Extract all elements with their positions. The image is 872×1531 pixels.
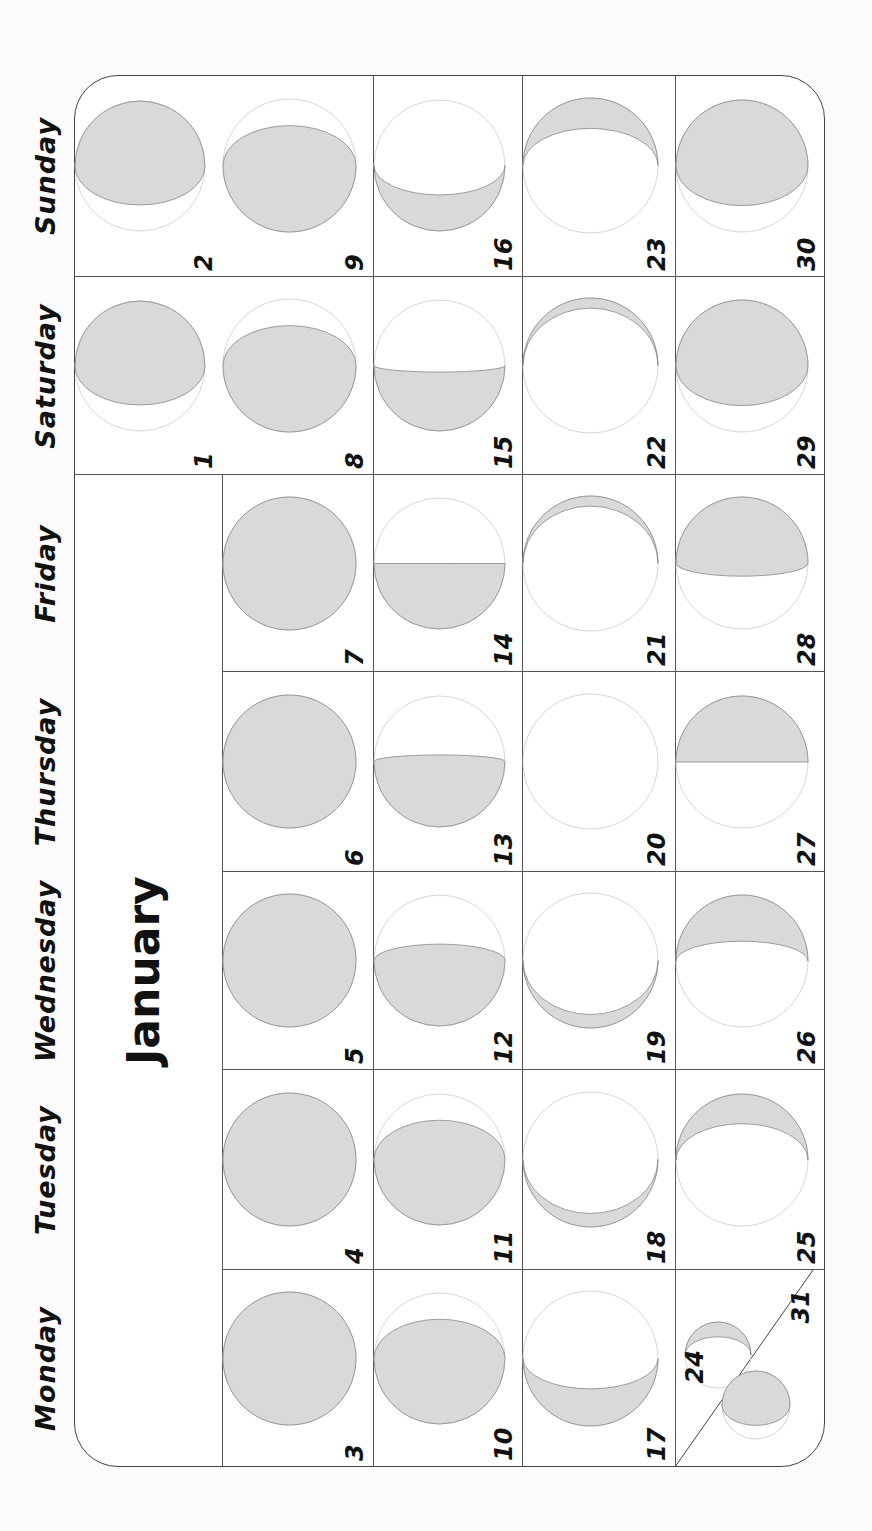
- day-cell-10: 10: [373, 1270, 522, 1467]
- day-number: 28: [793, 633, 821, 666]
- moon-phase-icon: [372, 1093, 511, 1228]
- day-number: 7: [341, 649, 369, 666]
- day-cell-20: 20: [522, 672, 675, 872]
- day-cell-19: 19: [522, 872, 675, 1070]
- weekday-monday: Monday: [20, 1270, 70, 1467]
- moon-phase-icon: [73, 99, 211, 233]
- moon-phase-icon: [372, 99, 511, 234]
- day-cell-17: 17: [522, 1270, 675, 1467]
- day-cell-2: 2: [74, 75, 222, 277]
- moon-phase-icon: [674, 1092, 814, 1228]
- moon-phase-icon: [521, 494, 664, 633]
- moon-phase-icon: [674, 98, 814, 234]
- moon-phase-icon: [521, 97, 664, 236]
- day-cell-21: 21: [522, 475, 675, 672]
- day-cell-1: 1: [74, 277, 222, 475]
- moon-phase-icon: [372, 1291, 511, 1426]
- moon-phase-icon: [521, 1289, 664, 1428]
- day-number: 22: [643, 436, 671, 469]
- day-number: 5: [341, 1047, 369, 1064]
- day-number: 9: [341, 254, 369, 271]
- moon-phase-icon: [372, 299, 511, 434]
- day-number: 12: [490, 1031, 518, 1064]
- moon-phase-icon: [674, 496, 814, 632]
- calendar-sheet: MondayTuesdayWednesdayThursdayFridaySatu…: [0, 0, 872, 1531]
- day-cell-5: 5: [222, 872, 373, 1070]
- moon-phase-icon: [73, 299, 211, 433]
- weekday-thursday: Thursday: [20, 672, 70, 872]
- day-cell-27: 27: [675, 672, 825, 872]
- moon-phase-icon: [521, 892, 664, 1031]
- day-number: 19: [643, 1031, 671, 1064]
- day-number: 31: [787, 1290, 815, 1323]
- day-cell-24: 2431: [675, 1270, 825, 1467]
- weekday-sunday: Sunday: [20, 75, 70, 277]
- moon-phase-icon: [674, 298, 814, 434]
- day-number: 8: [341, 452, 369, 469]
- day-number: 29: [793, 436, 821, 469]
- day-cell-11: 11: [373, 1070, 522, 1270]
- moon-phase-icon: [521, 693, 664, 832]
- calendar-page: MondayTuesdayWednesdayThursdayFridaySatu…: [0, 0, 872, 1531]
- day-number: 24: [681, 1350, 709, 1383]
- moon-phase-icon: [221, 495, 362, 632]
- day-cell-16: 16: [373, 75, 522, 277]
- day-cell-9: 9: [222, 75, 373, 277]
- day-cell-4: 4: [222, 1070, 373, 1270]
- moon-phase-icon: [521, 1091, 664, 1230]
- weekday-friday: Friday: [20, 475, 70, 672]
- moon-phase-icon: [372, 496, 511, 631]
- day-cell-15: 15: [373, 277, 522, 475]
- moon-phase-icon: [221, 893, 362, 1030]
- day-cell-28: 28: [675, 475, 825, 672]
- day-cell-25: 25: [675, 1070, 825, 1270]
- day-number: 30: [793, 238, 821, 271]
- day-cell-7: 7: [222, 475, 373, 672]
- weekday-wednesday: Wednesday: [20, 872, 70, 1070]
- day-cell-13: 13: [373, 672, 522, 872]
- day-number: 25: [793, 1231, 821, 1264]
- moon-phase-icon: [221, 1092, 362, 1229]
- day-cell-12: 12: [373, 872, 522, 1070]
- day-cell-6: 6: [222, 672, 373, 872]
- day-cell-30: 30: [675, 75, 825, 277]
- day-number: 18: [643, 1231, 671, 1264]
- day-number: 15: [490, 436, 518, 469]
- day-number: 26: [793, 1031, 821, 1064]
- day-number: 27: [793, 833, 821, 866]
- day-cell-8: 8: [222, 277, 373, 475]
- day-cell-26: 26: [675, 872, 825, 1070]
- day-number: 16: [490, 238, 518, 271]
- day-cell-18: 18: [522, 1070, 675, 1270]
- day-number: 13: [490, 833, 518, 866]
- day-number: 23: [643, 238, 671, 271]
- moon-phase-icon: [674, 893, 814, 1029]
- day-number: 20: [643, 833, 671, 866]
- day-number: 11: [490, 1231, 518, 1264]
- moon-phase-icon: [221, 298, 362, 435]
- day-number: 3: [341, 1444, 369, 1461]
- day-cell-23: 23: [522, 75, 675, 277]
- moon-phase-icon: [372, 695, 511, 830]
- day-cell-3: 3: [222, 1270, 373, 1467]
- day-number: 21: [643, 633, 671, 666]
- weekday-tuesday: Tuesday: [20, 1070, 70, 1270]
- day-cell-22: 22: [522, 277, 675, 475]
- moon-phase-icon: [221, 98, 362, 235]
- moon-phase-icon: [720, 1369, 796, 1441]
- moon-phase-icon: [221, 1290, 362, 1427]
- moon-phase-icon: [372, 894, 511, 1029]
- day-number: 10: [490, 1428, 518, 1461]
- day-cell-14: 14: [373, 475, 522, 672]
- moon-phase-icon: [521, 297, 664, 436]
- day-number: 2: [190, 254, 218, 271]
- month-title: January: [118, 876, 169, 1065]
- moon-phase-icon: [674, 694, 814, 830]
- day-number: 6: [341, 849, 369, 866]
- day-number: 1: [190, 452, 218, 469]
- day-number: 14: [490, 633, 518, 666]
- weekday-saturday: Saturday: [20, 277, 70, 475]
- day-cell-29: 29: [675, 277, 825, 475]
- day-number: 17: [643, 1428, 671, 1461]
- day-number: 4: [341, 1247, 369, 1264]
